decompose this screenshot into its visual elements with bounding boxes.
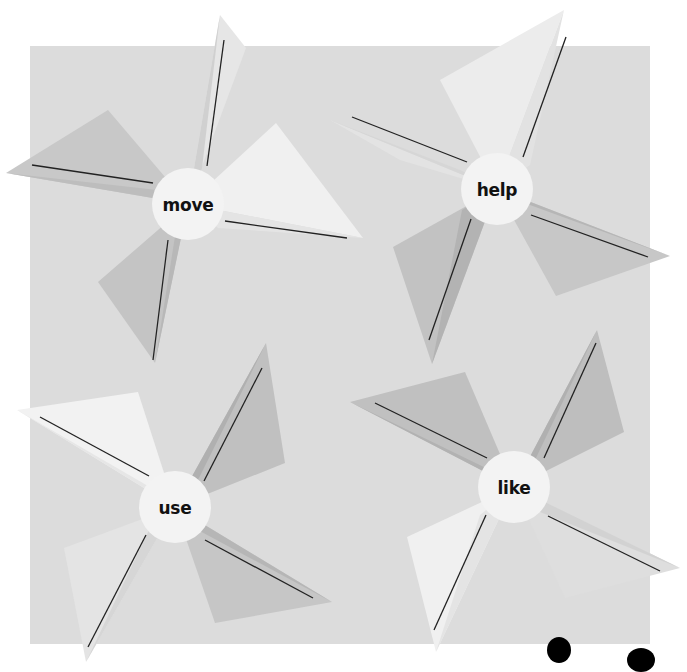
word-help: help xyxy=(477,180,517,200)
word-use: use xyxy=(159,498,192,518)
word-move: move xyxy=(163,195,214,215)
word-like: like xyxy=(498,478,531,498)
partial-black-mark xyxy=(627,648,655,672)
partial-black-mark xyxy=(547,637,571,663)
pinwheel-move xyxy=(6,15,363,363)
